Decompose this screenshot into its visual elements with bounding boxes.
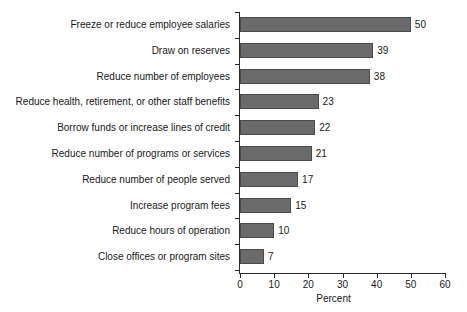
category-label: Reduce health, retirement, or other staf…: [16, 89, 230, 115]
category-label: Close offices or program sites: [98, 244, 230, 270]
x-axis-tick: [240, 274, 241, 278]
category-label: Reduce hours of operation: [112, 218, 230, 244]
bar-value-label: 23: [323, 94, 334, 109]
bar-value-label: 22: [319, 120, 330, 135]
bar-row: Close offices or program sites7: [0, 244, 467, 270]
bar-row: Increase program fees15: [0, 193, 467, 219]
bar: [240, 198, 291, 213]
x-axis-tick: [411, 274, 412, 278]
x-axis-tick: [377, 274, 378, 278]
bar-value-label: 38: [374, 69, 385, 84]
bar-row: Draw on reserves39: [0, 38, 467, 64]
x-axis-tick-label: 60: [425, 279, 465, 291]
bar-value-label: 21: [316, 146, 327, 161]
bar: [240, 146, 312, 161]
bar: [240, 17, 411, 32]
bar-value-label: 39: [377, 43, 388, 58]
bar-row: Reduce number of programs or services21: [0, 141, 467, 167]
x-axis-tick: [274, 274, 275, 278]
category-label: Reduce number of people served: [82, 167, 230, 193]
bar-row: Reduce number of employees38: [0, 64, 467, 90]
bar-value-label: 15: [295, 198, 306, 213]
category-label: Reduce number of employees: [97, 64, 230, 90]
bar: [240, 249, 264, 264]
category-label: Draw on reserves: [152, 38, 230, 64]
category-label: Increase program fees: [130, 193, 230, 219]
bar-row: Borrow funds or increase lines of credit…: [0, 115, 467, 141]
x-axis-tick: [343, 274, 344, 278]
bar: [240, 69, 370, 84]
bar-row: Freeze or reduce employee salaries50: [0, 12, 467, 38]
bar-value-label: 10: [278, 223, 289, 238]
bar-row: Reduce number of people served17: [0, 167, 467, 193]
category-label: Freeze or reduce employee salaries: [70, 12, 230, 38]
x-axis-title: Percent: [0, 293, 467, 304]
bar-value-label: 17: [302, 172, 313, 187]
category-label: Borrow funds or increase lines of credit: [57, 115, 230, 141]
x-axis-title-text: Percent: [316, 293, 350, 304]
category-label: Reduce number of programs or services: [52, 141, 230, 167]
bar: [240, 120, 315, 135]
bar: [240, 43, 373, 58]
bar: [240, 223, 274, 238]
x-axis-tick: [445, 274, 446, 278]
x-axis-tick: [308, 274, 309, 278]
bar: [240, 172, 298, 187]
bar: [240, 94, 319, 109]
bar-value-label: 7: [268, 249, 274, 264]
bar-value-label: 50: [415, 17, 426, 32]
bar-row: Reduce health, retirement, or other staf…: [0, 89, 467, 115]
bar-row: Reduce hours of operation10: [0, 218, 467, 244]
bar-chart: 0102030405060 Freeze or reduce employee …: [0, 0, 467, 312]
